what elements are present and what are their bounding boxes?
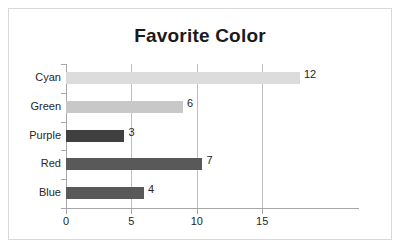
x-axis-tick bbox=[197, 209, 198, 214]
x-axis-tick bbox=[131, 209, 132, 214]
bar-value-green: 6 bbox=[187, 97, 193, 109]
chart-title: Favorite Color bbox=[9, 25, 391, 47]
x-axis-tick-label-5: 5 bbox=[116, 215, 146, 227]
bar-row-blue: 4 bbox=[9, 179, 391, 207]
bar-value-cyan: 12 bbox=[304, 68, 316, 80]
x-axis-tick-label-10: 10 bbox=[182, 215, 212, 227]
bar-cyan[interactable] bbox=[66, 72, 300, 84]
bar-purple[interactable] bbox=[66, 130, 124, 142]
bar-value-blue: 4 bbox=[148, 183, 154, 195]
bar-red[interactable] bbox=[66, 158, 202, 170]
bar-blue[interactable] bbox=[66, 187, 144, 199]
x-axis-line bbox=[66, 208, 359, 209]
chart-frame: Favorite Color Cyan Green Purple Red Blu… bbox=[8, 8, 392, 240]
x-axis-tick-label-15: 15 bbox=[247, 215, 277, 227]
bar-row-purple: 3 bbox=[9, 122, 391, 150]
x-axis-tick-label-0: 0 bbox=[51, 215, 81, 227]
bar-green[interactable] bbox=[66, 101, 183, 113]
bar-row-green: 6 bbox=[9, 93, 391, 121]
bar-value-purple: 3 bbox=[129, 126, 135, 138]
x-axis-tick bbox=[262, 209, 263, 214]
bar-value-red: 7 bbox=[207, 154, 213, 166]
x-axis-tick bbox=[66, 209, 67, 214]
bar-row-red: 7 bbox=[9, 150, 391, 178]
bar-row-cyan: 12 bbox=[9, 64, 391, 92]
